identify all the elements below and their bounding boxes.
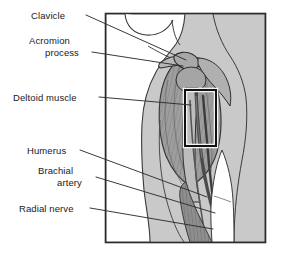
label-brachial: Brachial: [38, 165, 73, 176]
label-brachial-artery: artery: [57, 177, 82, 188]
label-acromion: Acromion: [29, 35, 70, 46]
anatomical-figure: Clavicle Acromion process Deltoid muscle…: [0, 0, 281, 253]
label-humerus: Humerus: [27, 145, 66, 156]
illustration-panel: [106, 14, 266, 243]
label-radial-nerve: Radial nerve: [19, 203, 74, 214]
label-deltoid-muscle: Deltoid muscle: [13, 92, 77, 103]
label-acromion-process: process: [45, 47, 79, 58]
label-clavicle: Clavicle: [31, 10, 65, 21]
